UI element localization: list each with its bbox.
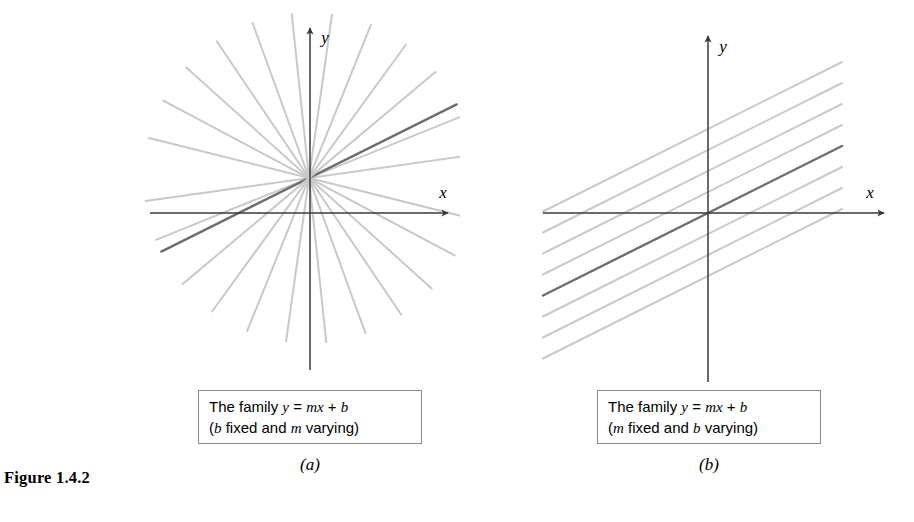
y-axis-label: y: [319, 28, 329, 47]
caption-b-x: x: [716, 399, 723, 415]
caption-a-close-paren: varying): [302, 419, 360, 436]
caption-a-fixed-var: b: [214, 420, 222, 436]
caption-box-a: The family y = mx + b (b fixed and m var…: [198, 390, 422, 444]
caption-a-m: m: [306, 399, 317, 415]
x-axis-label: x: [438, 183, 447, 202]
family-lines-b: [543, 62, 842, 359]
y-axis-label: y: [717, 37, 727, 56]
caption-a-b: b: [341, 399, 349, 415]
caption-b-mid: fixed and: [624, 419, 693, 436]
caption-a-line1: The family y = mx + b: [209, 397, 411, 418]
plot-a-pencil-of-lines: xy: [0, 0, 460, 380]
caption-b-b: b: [740, 399, 748, 415]
caption-b-varying-var: b: [693, 420, 701, 436]
panel-label-b: (b): [679, 455, 739, 475]
panel-a: xy The family y = mx + b (b fixed and m …: [0, 0, 460, 522]
caption-a-line2: (b fixed and m varying): [209, 418, 411, 439]
caption-b-line2: (m fixed and b varying): [608, 418, 810, 439]
caption-b-eq: =: [688, 398, 705, 415]
figure-container: xy The family y = mx + b (b fixed and m …: [0, 0, 914, 522]
panel-label-a: (a): [280, 455, 340, 475]
caption-b-line1: The family y = mx + b: [608, 397, 810, 418]
caption-box-b: The family y = mx + b (m fixed and b var…: [597, 390, 821, 444]
plot-b-parallel-lines: xy: [460, 0, 914, 392]
family-line-5: [543, 125, 842, 275]
caption-a-plus: +: [324, 398, 341, 415]
caption-a-eq: =: [289, 398, 306, 415]
caption-a-x: x: [317, 399, 324, 415]
family-lines-a: [146, 14, 460, 342]
x-axis-label: x: [865, 183, 874, 202]
caption-a-varying-var: m: [291, 420, 302, 436]
caption-b-fixed-var: m: [613, 420, 624, 436]
caption-b-plus: +: [723, 398, 740, 415]
caption-a-prefix: The family: [209, 398, 282, 415]
caption-a-mid: fixed and: [222, 419, 291, 436]
caption-b-prefix: The family: [608, 398, 681, 415]
family-line-4-highlighted: [543, 146, 842, 296]
caption-b-m: m: [705, 399, 716, 415]
caption-b-close-paren: varying): [701, 419, 759, 436]
figure-number-label: Figure 1.4.2: [4, 468, 90, 488]
